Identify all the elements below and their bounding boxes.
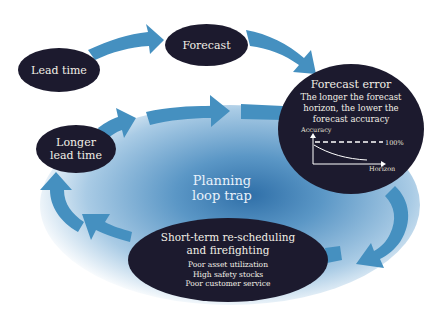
- forecast-error-desc-1: The longer the forecast: [300, 92, 401, 102]
- planning-loop-diagram: Planning loop trap Lead time Forecast Lo…: [0, 0, 443, 316]
- arrow-up-to-longer: [40, 172, 84, 232]
- arrow-error-to-short: [356, 186, 408, 268]
- arrow-short-to-left: [82, 214, 132, 242]
- node-forecast-error: Forecast error The longer the forecast h…: [278, 64, 424, 194]
- short-term-title-2: and firefighting: [187, 244, 270, 257]
- short-term-effect-3: Poor customer service: [186, 279, 271, 289]
- arrow-forecast-to-error: [246, 30, 316, 74]
- mini-chart-x-label: Horizon: [369, 165, 395, 173]
- center-label-line1: Planning: [178, 173, 266, 188]
- forecast-error-desc-2: horizon, the lower the: [303, 103, 398, 113]
- planning-loop-trap-label: Planning loop trap: [178, 173, 266, 203]
- short-term-effect-1: Poor asset utilization: [188, 260, 268, 270]
- short-term-title-1: Short-term re-scheduling: [161, 231, 296, 244]
- node-lead-time: Lead time: [18, 48, 100, 92]
- node-longer-lead-time: Longer lead time: [36, 125, 116, 173]
- forecast-error-title: Forecast error: [311, 78, 392, 91]
- center-label-line2: loop trap: [178, 188, 266, 203]
- node-lead-time-label: Lead time: [31, 64, 87, 77]
- arrow-longer-3: [241, 104, 283, 120]
- accuracy-horizon-mini-chart: Accuracy 100% Horizon: [299, 126, 403, 176]
- node-short-term-rescheduling: Short-term re-scheduling and firefightin…: [128, 218, 328, 302]
- node-forecast-label: Forecast: [182, 39, 230, 52]
- forecast-error-desc-3: forecast accuracy: [313, 114, 389, 124]
- node-longer-line1: Longer: [56, 136, 96, 149]
- arrow-lead-to-forecast: [88, 24, 164, 60]
- node-forecast: Forecast: [165, 24, 248, 66]
- short-term-effect-2: High safety stocks: [193, 270, 263, 280]
- arrow-longer-2: [146, 95, 230, 127]
- node-longer-line2: lead time: [50, 149, 102, 162]
- mini-chart-reference-label: 100%: [385, 139, 404, 147]
